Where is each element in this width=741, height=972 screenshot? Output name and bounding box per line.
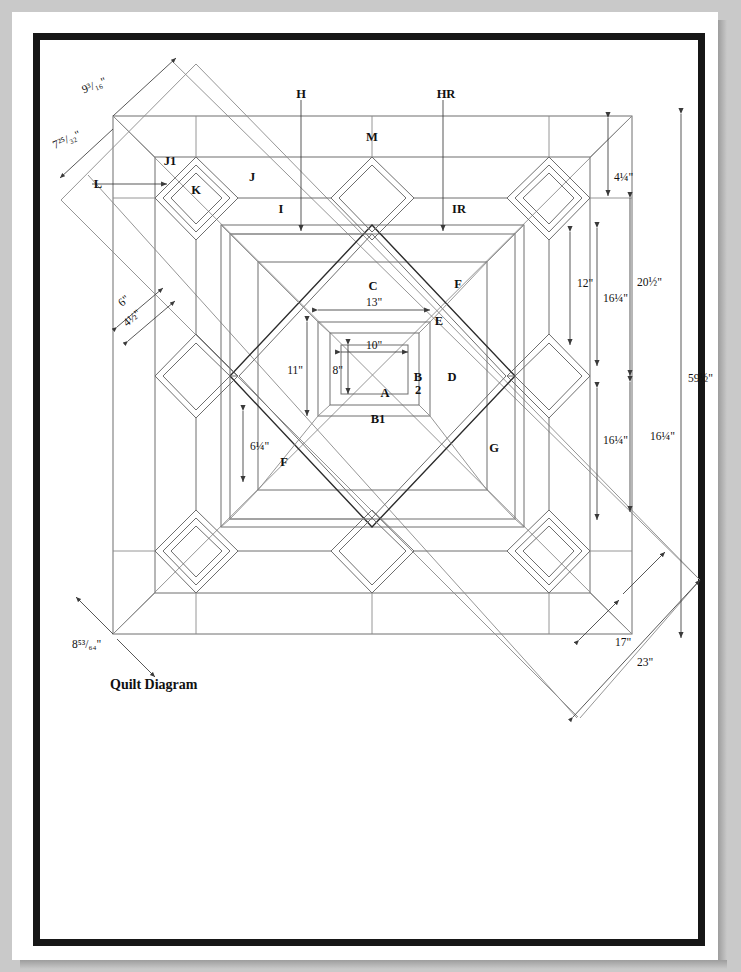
- label-b2-bottom: 2: [415, 383, 421, 397]
- dim-right-total: 59½": [688, 372, 713, 384]
- dim-diag-23: 23": [637, 656, 653, 668]
- dim-inner-height: 11": [287, 364, 303, 376]
- label-b2-top: B: [414, 370, 422, 384]
- dim-right-12: 12": [577, 277, 593, 289]
- label-f-right: F: [454, 277, 462, 291]
- center-on-point-diamond: [230, 225, 515, 527]
- label-l: L: [94, 177, 102, 191]
- label-g: G: [489, 441, 499, 455]
- dim-left-6: 6": [116, 293, 132, 309]
- label-d: D: [447, 370, 456, 384]
- dim-left-4half: 4½": [121, 307, 143, 328]
- label-j: J: [249, 170, 255, 184]
- label-c: C: [368, 279, 377, 293]
- label-m: M: [366, 130, 378, 144]
- dim-right-16a: 16¼": [603, 292, 628, 304]
- dim-right-16b: 16¼": [603, 434, 628, 446]
- dim-corner-left: 7²⁵/₃₂": [51, 128, 82, 151]
- dim-inner-width: 13": [366, 296, 382, 308]
- label-f-left: F: [280, 455, 288, 469]
- label-b1: B1: [371, 412, 386, 426]
- dim-right-20: 20½": [637, 276, 662, 288]
- label-h: H: [296, 87, 306, 101]
- figure-caption: Quilt Diagram: [110, 677, 198, 692]
- dim-corner-bottomleft: 8⁵³/₆₄": [72, 638, 101, 650]
- page-wrapper: 10" 8" 13" 11" 6¼" 4¼" 12" 16¼": [0, 0, 741, 972]
- label-j1: J1: [164, 154, 177, 168]
- label-i: I: [279, 202, 284, 216]
- label-k: K: [191, 183, 201, 197]
- dim-center-height: 8": [333, 364, 343, 376]
- dim-right-16c: 16¼": [650, 430, 675, 442]
- dim-diag-17: 17": [615, 636, 631, 648]
- label-hr: HR: [437, 87, 457, 101]
- dim-f-height: 6¼": [250, 440, 269, 452]
- label-ir: IR: [452, 202, 467, 216]
- dim-corner-top: 9³/₁₆": [80, 75, 108, 96]
- label-a: A: [380, 386, 389, 400]
- dim-top-right-small: 4¼": [614, 171, 633, 183]
- label-e: E: [435, 314, 443, 328]
- dim-center-width: 10": [366, 339, 382, 351]
- quilt-diagram-svg: 10" 8" 13" 11" 6¼" 4¼" 12" 16¼": [0, 0, 741, 972]
